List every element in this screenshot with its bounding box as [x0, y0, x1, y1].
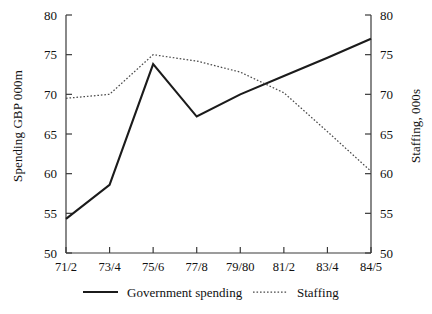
- x-axis-tick-label: 84/5: [360, 260, 382, 274]
- x-axis-tick-label: 77/8: [186, 260, 208, 274]
- y-axis-left-tick-label: 70: [44, 87, 57, 102]
- x-axis-ticks: [66, 247, 371, 253]
- y-axis-left-tick-label: 80: [44, 8, 57, 23]
- line-chart-plot: 50556065707580 50556065707580 71/273/475…: [0, 0, 432, 314]
- legend-label-staffing: Staffing: [297, 285, 339, 300]
- x-axis-tick-label: 81/2: [273, 260, 295, 274]
- legend-label-government-spending: Government spending: [127, 285, 243, 300]
- x-axis-tick-label: 79/80: [226, 260, 254, 274]
- y-axis-right-tick-label: 75: [380, 47, 393, 62]
- chart-legend: Government spending Staffing: [83, 285, 339, 300]
- y-axis-right-tick-label: 50: [380, 246, 393, 261]
- x-axis: 71/273/475/677/879/8081/283/484/5: [55, 247, 382, 274]
- y-axis-left-tick-label: 55: [44, 206, 57, 221]
- chart-figure: Spending GBP 000m Staffing, 000s 5055606…: [0, 0, 432, 314]
- y-axis-right-tick-label: 80: [380, 8, 393, 23]
- y-axis-right-tick-label: 55: [380, 206, 393, 221]
- y-axis-left-tick-label: 65: [44, 127, 57, 142]
- y-axis-right-ticks: [365, 15, 371, 253]
- y-axis-right-tick-label: 70: [380, 87, 393, 102]
- y-axis-left-tick-label: 75: [44, 47, 57, 62]
- series-line-staffing: [66, 55, 371, 172]
- y-axis-left-tick-label: 50: [44, 246, 57, 261]
- x-axis-tick-labels: 71/273/475/677/879/8081/283/484/5: [55, 260, 382, 274]
- x-axis-tick-label: 71/2: [55, 260, 77, 274]
- x-axis-tick-label: 83/4: [316, 260, 339, 274]
- y-axis-right-tick-label: 60: [380, 166, 393, 181]
- y-axis-left-tick-label: 60: [44, 166, 57, 181]
- x-axis-tick-label: 73/4: [98, 260, 121, 274]
- x-axis-tick-label: 75/6: [142, 260, 164, 274]
- y-axis-right: 50556065707580: [365, 8, 393, 261]
- y-axis-right-tick-label: 65: [380, 127, 393, 142]
- y-axis-right-tick-labels: 50556065707580: [380, 8, 393, 261]
- y-axis-left-tick-labels: 50556065707580: [44, 8, 57, 261]
- series-layer: [66, 39, 371, 219]
- y-axis-left: 50556065707580: [44, 8, 72, 261]
